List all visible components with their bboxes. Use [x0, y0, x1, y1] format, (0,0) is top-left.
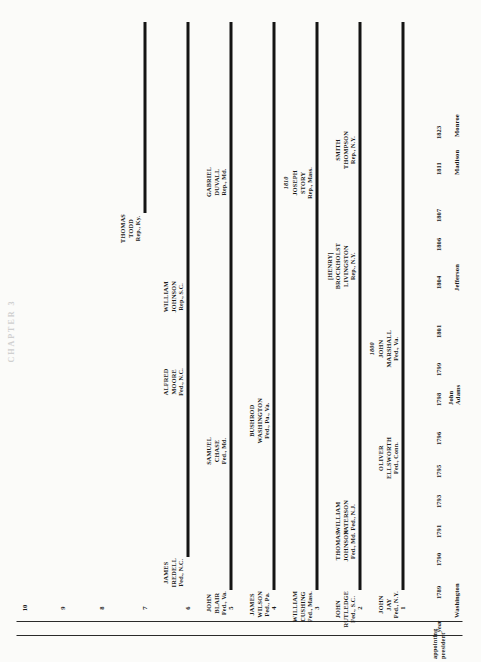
justice-name-line: JOHN: [376, 330, 384, 368]
year-label-1804: 1804: [434, 276, 441, 289]
year-label-1799: 1799: [434, 363, 441, 376]
justice-name-line: BUSHROD: [247, 398, 255, 443]
justice-affiliation: Rep., N.Y.: [349, 243, 357, 289]
justice-label: OLIVERELLSWORTHFed., Conn.: [376, 437, 399, 479]
year-label-1801: 1801: [434, 325, 441, 338]
seat-number-6: 6: [183, 601, 190, 615]
year-label-1811: 1811: [434, 162, 441, 175]
justice-label: WILLIAMJOHNSONRep., S.C.: [161, 281, 184, 313]
justice-affiliation: Fed., N.Y.: [392, 591, 400, 618]
president-label-jefferson: Jefferson: [452, 264, 459, 291]
justice-label: SAMUELCHASEFed., Md.: [204, 437, 227, 465]
justice-name-line: SMITH: [333, 131, 341, 169]
justice-name-line: BROCKHOLST: [333, 243, 341, 289]
tenure-bar: [272, 22, 275, 397]
justice-label: JAMESIREDELLFed., N.C.: [161, 558, 184, 587]
president-label-madison: Madison: [452, 150, 459, 175]
tenure-bar: [229, 22, 232, 166]
justice-label: JAMESWILSONFed., Pa.: [247, 591, 270, 618]
justice-name-line: WILSON: [255, 591, 263, 618]
justice-affiliation: Fed., N.J.: [349, 500, 357, 535]
justice-name-line: JOHN: [376, 591, 384, 618]
justice-name-line: PATERSON: [341, 500, 349, 535]
tenure-bar: [186, 280, 189, 367]
justice-name-line: WILLIAM: [290, 591, 298, 622]
justice-label: WILLIAMPATERSONFed., N.J.: [333, 500, 356, 535]
justice-affiliation: Fed., Md.: [220, 437, 228, 465]
justice-name-line: WASHINGTON: [255, 398, 263, 443]
justice-name-line: JOHNSON: [169, 281, 177, 313]
president-label-line: Adams: [453, 385, 460, 405]
corner-label: appointing president: [430, 628, 446, 659]
justice-label: 1800JOHNMARSHALLFed., Va.: [368, 330, 399, 368]
justice-label: JOHNBLAIRFed., Va.: [204, 591, 227, 615]
president-label-john-adams: JohnAdams: [446, 385, 460, 405]
justice-name-line: LIVINGSTON: [341, 243, 349, 289]
chart-plate: CHAPTER 3 appointing president year 1234…: [0, 0, 481, 662]
justice-name-line: ELLSWORTH: [384, 437, 392, 479]
tenure-bar: [401, 436, 404, 590]
tenure-bar: [315, 22, 318, 166]
justice-affiliation: Fed., N.C.: [177, 558, 185, 587]
frame-rule-inner: [16, 621, 462, 622]
year-label-1790: 1790: [434, 553, 441, 566]
year-label-1823: 1823: [434, 126, 441, 139]
justice-label: WILLIAMCUSHINGFed., Mass.: [290, 591, 313, 622]
justice-label: THOMASTODDRep., Ky.: [118, 214, 141, 243]
justice-label: 1810JOSEPHSTORYRep., Mass.: [282, 167, 313, 199]
justice-affiliation: Rep., S.C.: [177, 281, 185, 313]
tenure-bar: [358, 529, 361, 590]
justice-affiliation: Fed., N.C.: [177, 368, 185, 396]
tenure-bar: [186, 367, 189, 557]
seat-number-8: 8: [97, 601, 104, 615]
justice-nomination-year: 1810: [282, 167, 290, 199]
justice-label: [HENRY]BROCKHOLSTLIVINGSTONRep., N.Y.: [325, 243, 356, 289]
justice-name-line: OLIVER: [376, 437, 384, 479]
justice-affiliation: Rep., Ky.: [134, 214, 142, 243]
justice-name-line: WILLIAM: [333, 500, 341, 535]
president-label-washington: Washington: [452, 583, 459, 618]
justice-name-line: ALFRED: [161, 368, 169, 396]
justice-affiliation: Rep., Md.: [220, 167, 228, 197]
year-label-1791: 1791: [434, 525, 441, 538]
tenure-bar: [229, 166, 232, 436]
justice-name-line: GABRIEL: [204, 167, 212, 197]
justice-name-line: CUSHING: [298, 591, 306, 622]
tenure-bar: [143, 22, 146, 213]
year-label-1806: 1806: [434, 238, 441, 251]
year-label-1807: 1807: [434, 209, 441, 222]
justice-name-line: RUTLEDGE: [341, 591, 349, 628]
justice-name-line: JAY: [384, 591, 392, 618]
tenure-bar: [401, 22, 404, 329]
justice-name-line: SAMUEL: [204, 437, 212, 465]
justice-name-line: STORY: [298, 167, 306, 199]
seat-number-10: 10: [20, 601, 27, 615]
justice-name-line: JAMES: [247, 591, 255, 618]
year-column-header: year: [434, 621, 441, 632]
tenure-bar: [315, 166, 318, 590]
corner-label-line1: appointing: [430, 628, 438, 659]
frame-rule-outer: [16, 635, 462, 636]
justice-affiliation: Fed., Va.: [392, 330, 400, 368]
justice-nomination-year: 1800: [368, 330, 376, 368]
justice-name-line: THOMAS: [118, 214, 126, 243]
justice-label: JOHNJAYFed., N.Y.: [376, 591, 399, 618]
seat-number-7: 7: [140, 601, 147, 615]
justice-label: BUSHRODWASHINGTONFed., Pa., Va.: [247, 398, 270, 443]
seat-number-9: 9: [58, 601, 65, 615]
justice-name-line: CHASE: [212, 437, 220, 465]
justice-name-line: THOMAS: [333, 530, 341, 562]
justice-name-line: JOHN: [333, 591, 341, 628]
justice-name-line: MOORE: [169, 368, 177, 396]
tenure-bar: [358, 130, 361, 242]
justice-name-line: JOHN: [204, 591, 212, 615]
justice-name-line: MARSHALL: [384, 330, 392, 368]
justice-affiliation: Fed., S.C.: [349, 591, 357, 628]
justice-name-line: JAMES: [161, 558, 169, 587]
justice-label: SMITHTHOMPSONRep., N.Y.: [333, 131, 356, 169]
justice-name-line: THOMPSON: [341, 131, 349, 169]
justice-affiliation: Rep., N.Y.: [349, 131, 357, 169]
justice-affiliation: Fed., Mass.: [306, 591, 314, 622]
year-label-1789: 1789: [434, 586, 441, 599]
year-label-1795: 1795: [434, 465, 441, 478]
